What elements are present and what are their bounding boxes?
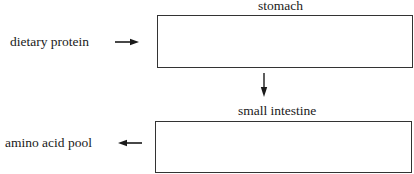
arrow-left-icon	[114, 138, 144, 148]
dietary-protein-label: dietary protein	[10, 34, 89, 50]
small-intestine-box[interactable]	[155, 121, 412, 173]
small-intestine-title: small intestine	[238, 103, 316, 119]
amino-acid-pool-label: amino acid pool	[5, 135, 92, 151]
arrow-right-icon	[114, 37, 144, 47]
stomach-box[interactable]	[157, 15, 413, 68]
stomach-title: stomach	[258, 0, 303, 14]
arrow-down-icon	[259, 72, 269, 100]
